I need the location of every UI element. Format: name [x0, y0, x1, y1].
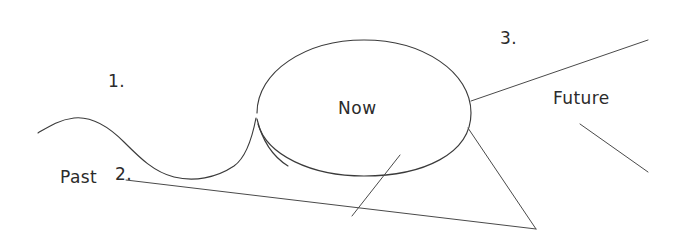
future-label: Future [553, 90, 610, 107]
future-branch-lower [468, 128, 536, 229]
marker-two-label: 2. [115, 166, 132, 183]
sketch-drawing [0, 0, 680, 246]
diagram-canvas: 1. Past 2. Now 3. Future [0, 0, 680, 246]
future-branch-middle [580, 124, 648, 172]
marker-three-label: 3. [500, 30, 517, 47]
baseline-two-path [126, 180, 536, 229]
past-label: Past [60, 169, 97, 186]
marker-one-label: 1. [108, 73, 125, 90]
tick-connector [352, 155, 400, 216]
now-label: Now [338, 100, 377, 117]
cusp-descent-path [257, 119, 288, 166]
